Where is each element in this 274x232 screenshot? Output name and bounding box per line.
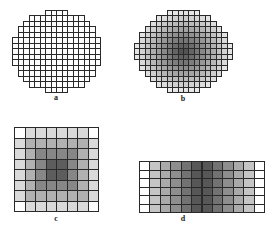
figure-c-shaded-square-grid: [14, 127, 98, 211]
figure-d-shaded-rect-grid: [139, 161, 264, 212]
grid-cell: [205, 81, 211, 87]
grid-cell: [62, 87, 69, 93]
figure-d-label: d: [177, 214, 189, 223]
figure-c-label: c: [50, 214, 62, 223]
figure-a-circle-grid: [12, 10, 100, 92]
grid-cell: [194, 87, 200, 93]
grid-cell: [78, 81, 85, 87]
grid-cell: [88, 201, 100, 213]
figure-a-label: a: [50, 93, 62, 102]
figure-b-shaded-circle-grid: [134, 10, 232, 92]
grid-cell: [254, 204, 265, 214]
figure-b-label: b: [177, 94, 189, 103]
